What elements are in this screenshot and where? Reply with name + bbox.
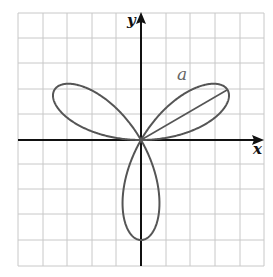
segment-label: a	[177, 64, 187, 84]
rose-curve-figure: a y x	[0, 0, 273, 277]
y-axis-label: y	[126, 11, 137, 29]
x-axis-label: x	[252, 140, 263, 158]
